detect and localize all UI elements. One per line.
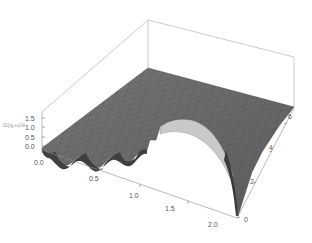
x-tick-0.0: 0.0 (34, 159, 44, 166)
z-tick-0.5: 0.5 (25, 134, 35, 141)
surface-plot: 1.5 1.0 0.5 0.0 Ω(q,ω)/ε 0.0 0.5 1.0 1.5… (0, 0, 312, 243)
x-tick-2.0: 2.0 (208, 221, 218, 228)
y-tick-0: 0 (244, 216, 248, 223)
z-tick-1.5: 1.5 (25, 115, 35, 122)
z-tick-0.0: 0.0 (25, 143, 35, 150)
z-tick-1.0: 1.0 (25, 124, 35, 131)
x-tick-1.0: 1.0 (129, 192, 139, 199)
y-tick-6: 6 (288, 113, 292, 120)
z-axis (42, 118, 45, 146)
x-tick-0.5: 0.5 (89, 175, 99, 182)
z-axis-title: Ω(q,ω)/ε (3, 122, 26, 128)
x-tick-1.5: 1.5 (165, 205, 175, 212)
y-tick-2: 2 (250, 178, 254, 185)
y-tick-4: 4 (269, 144, 273, 151)
